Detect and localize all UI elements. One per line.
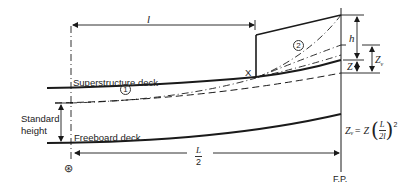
h-label: h <box>349 33 355 44</box>
ship-sheer-diagram <box>0 0 414 185</box>
midship-symbol-icon: ⊛ <box>64 163 73 174</box>
half-length-label: L 2 <box>195 146 202 167</box>
z-label: Z <box>347 62 353 72</box>
point-x-label: X <box>245 68 251 78</box>
zv-formula: Zv = Z ( L 2l ) 2 <box>345 120 397 140</box>
curve-2-lower <box>258 55 341 77</box>
superstructure-top <box>256 15 341 35</box>
freeboard-deck-label: Freeboard deck <box>74 133 141 143</box>
zv-label: Zv <box>375 55 383 67</box>
standard-height-label-line1: Standard <box>21 114 60 124</box>
standard-height-label-line2: height <box>21 126 47 136</box>
superstructure-deck-label: Superstructure deck <box>73 78 158 88</box>
length-l-label: l <box>147 14 150 25</box>
forward-perpendicular-label: F.P. <box>333 175 347 184</box>
curve-2-marker: 2 <box>293 40 304 51</box>
curve-1-marker: 1 <box>120 84 131 95</box>
